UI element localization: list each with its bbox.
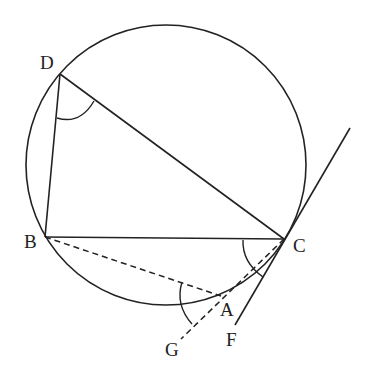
label-C: C (293, 235, 306, 256)
tangent-line-CF (235, 128, 350, 325)
label-B: B (24, 231, 37, 252)
label-F: F (226, 329, 237, 350)
geometry-diagram: D B C A F G (0, 0, 365, 368)
segment-BC (45, 237, 284, 239)
segment-BA-dashed (45, 237, 221, 296)
segment-DB (45, 74, 60, 237)
label-D: D (40, 52, 54, 73)
angle-mark-D (57, 101, 94, 120)
segment-CG-dashed (181, 239, 284, 339)
label-G: G (165, 339, 179, 360)
angle-mark-C (243, 240, 263, 277)
segment-DC (60, 74, 284, 239)
circumcircle (26, 25, 306, 305)
label-A: A (220, 299, 234, 320)
